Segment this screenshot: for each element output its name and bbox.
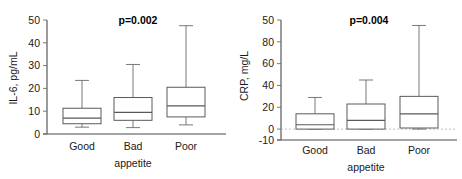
p-value-annotation: p=0.004 (350, 14, 389, 26)
x-category-label-poor: Poor (408, 144, 431, 156)
box-group-poor (167, 26, 205, 125)
box-group-poor (400, 25, 438, 129)
box-rect-poor (400, 96, 438, 128)
box-rect-good (63, 108, 101, 124)
y-ticklabel-0: 0 (34, 128, 40, 140)
box-group-bad (114, 64, 152, 127)
x-axis-title: appetite (114, 157, 152, 169)
y-ticklabel-10: 10 (28, 105, 40, 117)
p-value-annotation: p=0.002 (119, 14, 158, 26)
y-ticklabel-100: 50 (262, 14, 274, 26)
x-axis-title: appetite (347, 161, 385, 173)
box-group-bad (347, 80, 385, 129)
box-group-good (63, 80, 101, 127)
il6-plot-area: 01020304050GoodBadPoorappetiteIL-6, pg/m… (0, 0, 231, 179)
boxplot-figure: 01020304050GoodBadPoorappetiteIL-6, pg/m… (0, 0, 462, 179)
y-axis-title: IL-6, pg/mL (7, 51, 19, 104)
chart-panel-il6: 01020304050GoodBadPoorappetiteIL-6, pg/m… (0, 0, 231, 179)
x-category-label-poor: Poor (175, 140, 198, 152)
crp-boxplot-svg: -1002040608050GoodBadPoorappetiteCRP, mg… (231, 0, 462, 179)
chart-panel-crp: -1002040608050GoodBadPoorappetiteCRP, mg… (231, 0, 462, 179)
x-category-label-good: Good (302, 144, 328, 156)
y-axis-title: CRP, mg/L (238, 51, 250, 101)
x-category-label-good: Good (69, 140, 95, 152)
box-group-good (296, 97, 334, 129)
crp-plot-area: -1002040608050GoodBadPoorappetiteCRP, mg… (231, 0, 462, 179)
y-ticklabel-20: 20 (28, 82, 40, 94)
box-rect-bad (114, 98, 152, 121)
box-rect-poor (167, 87, 205, 117)
box-rect-bad (347, 104, 385, 129)
y-ticklabel-40: 40 (262, 79, 274, 91)
x-category-label-bad: Bad (357, 144, 376, 156)
y-ticklabel-50: 50 (28, 14, 40, 26)
y-ticklabel-0: 0 (268, 123, 274, 135)
y-ticklabel-80: 80 (262, 36, 274, 48)
y-ticklabel-60: 60 (262, 57, 274, 69)
il6-boxplot-svg: 01020304050GoodBadPoorappetiteIL-6, pg/m… (0, 0, 231, 179)
y-ticklabel--10: -10 (259, 134, 274, 146)
y-ticklabel-40: 40 (28, 37, 40, 49)
box-rect-good (296, 114, 334, 129)
y-ticklabel-20: 20 (262, 101, 274, 113)
x-category-label-bad: Bad (124, 140, 143, 152)
y-ticklabel-30: 30 (28, 59, 40, 71)
